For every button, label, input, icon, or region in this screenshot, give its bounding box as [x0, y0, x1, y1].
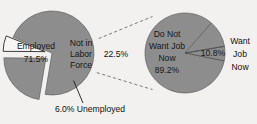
- label-dnwjn-line2: Want Job: [149, 41, 185, 51]
- connector-line-lower: [97, 73, 153, 90]
- label-nilf-line1: Not in: [70, 38, 93, 48]
- label-nilf-line3: Force: [70, 60, 92, 70]
- label-wjn-line1: Want: [230, 36, 250, 46]
- connector-line-upper: [99, 17, 153, 39]
- label-dnwjn-value: 89.2%: [155, 65, 180, 75]
- chart-canvas: Employed 71.5% Not in Labor Force 22.5% …: [0, 0, 257, 124]
- label-wjn-line2: Job: [233, 49, 247, 59]
- label-nilf-value: 22.5%: [104, 49, 129, 59]
- label-dnwjn-line1: Do Not: [154, 29, 181, 39]
- label-nilf-line2: Labor: [70, 49, 92, 59]
- label-employed-value: 71.5%: [24, 54, 49, 64]
- label-dnwjn-line3: Now: [158, 53, 176, 63]
- pie-of-pie-figure: Employed 71.5% Not in Labor Force 22.5% …: [0, 0, 257, 124]
- label-wjn-value: 10.8%: [201, 48, 226, 58]
- label-employed-name: Employed: [17, 41, 55, 51]
- label-unemployed-callout: 6.0% Unemployed: [55, 104, 125, 114]
- label-wjn-line3: Now: [231, 62, 249, 72]
